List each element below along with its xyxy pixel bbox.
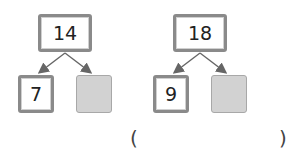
number-bond-left-2: 9 bbox=[153, 75, 189, 113]
close-paren: ) bbox=[279, 126, 287, 150]
open-paren: ( bbox=[130, 126, 138, 150]
number-bond-left-1: 7 bbox=[18, 75, 54, 113]
number-bond-top-1: 14 bbox=[38, 14, 92, 52]
arrow-right-1 bbox=[65, 53, 90, 72]
number-bond-top-2: 18 bbox=[173, 14, 227, 52]
arrow-right-2 bbox=[200, 53, 225, 72]
blank-box-2[interactable] bbox=[211, 75, 247, 113]
arrow-left-1 bbox=[40, 53, 65, 72]
arrow-left-2 bbox=[175, 53, 200, 72]
answer-blank[interactable] bbox=[145, 128, 275, 150]
blank-box-1[interactable] bbox=[76, 75, 112, 113]
